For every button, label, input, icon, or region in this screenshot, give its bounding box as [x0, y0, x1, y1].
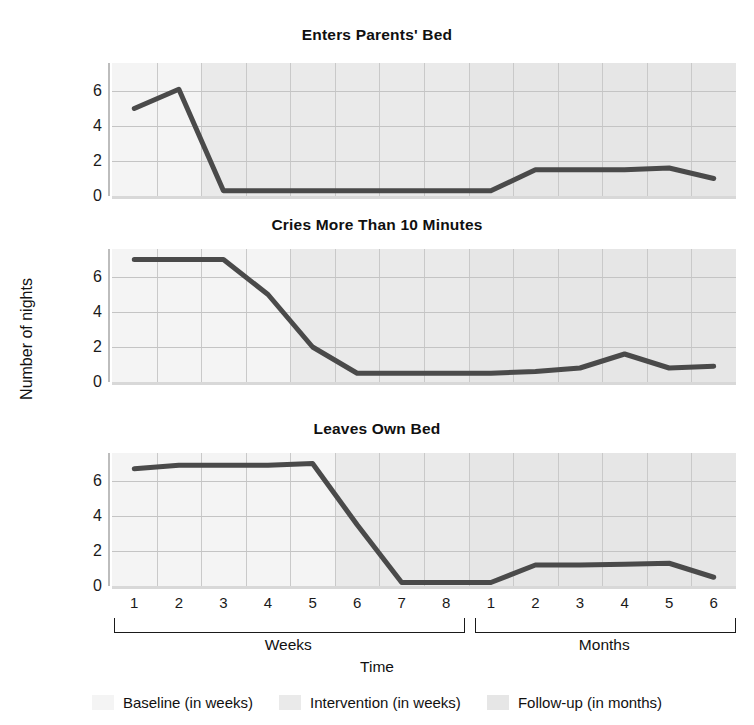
- legend-item-baseline: Baseline (in weeks): [92, 694, 253, 711]
- y-axis-line-2: [108, 453, 110, 586]
- bracket-label-weeks: Weeks: [114, 636, 463, 654]
- x-tick-label: 2: [164, 594, 194, 611]
- series-line-0: [112, 63, 736, 196]
- plot-area-2: [112, 453, 736, 586]
- legend-swatch-intervention: [279, 695, 301, 710]
- y-axis-title: Number of nights: [18, 244, 36, 434]
- y-tick-label: 4: [72, 118, 102, 134]
- x-tick-label: 6: [699, 594, 729, 611]
- y-tick-label: 6: [72, 473, 102, 489]
- bracket-label-months: Months: [475, 636, 734, 654]
- plot-area-0: [112, 63, 736, 196]
- figure-root: Number of nights Enters Parents' Bed0246…: [0, 0, 754, 725]
- x-tick-label: 5: [298, 594, 328, 611]
- x-tick-label: 4: [253, 594, 283, 611]
- legend-label-intervention: Intervention (in weeks): [310, 694, 461, 711]
- plot-area-1: [112, 249, 736, 382]
- legend-item-intervention: Intervention (in weeks): [279, 694, 461, 711]
- series-line-2: [112, 453, 736, 586]
- series-line-1: [112, 249, 736, 382]
- y-tick-label: 6: [72, 83, 102, 99]
- y-tick-label: 4: [72, 304, 102, 320]
- y-tick-label: 2: [72, 543, 102, 559]
- x-tick-label: 3: [565, 594, 595, 611]
- legend-item-followup: Follow-up (in months): [487, 694, 662, 711]
- x-tick-label: 2: [520, 594, 550, 611]
- panel-title-0: Enters Parents' Bed: [0, 26, 754, 44]
- x-axis-line-2: [112, 586, 736, 589]
- legend-swatch-followup: [487, 695, 509, 710]
- panel-title-1: Cries More Than 10 Minutes: [0, 216, 754, 234]
- y-tick-label: 0: [72, 188, 102, 204]
- x-tick-label: 3: [208, 594, 238, 611]
- bracket-weeks: [114, 618, 465, 633]
- legend-label-followup: Follow-up (in months): [518, 694, 662, 711]
- x-tick-label: 6: [342, 594, 372, 611]
- x-axis-line-1: [112, 382, 736, 385]
- legend-swatch-baseline: [92, 695, 114, 710]
- y-tick-label: 6: [72, 269, 102, 285]
- x-axis-title: Time: [0, 658, 754, 676]
- x-tick-label: 7: [387, 594, 417, 611]
- y-axis-line-1: [108, 249, 110, 382]
- y-tick-label: 2: [72, 153, 102, 169]
- x-tick-label: 5: [654, 594, 684, 611]
- y-axis-line-0: [108, 63, 110, 196]
- legend: Baseline (in weeks)Intervention (in week…: [0, 694, 754, 711]
- y-tick-label: 4: [72, 508, 102, 524]
- x-axis-line-0: [112, 196, 736, 199]
- x-tick-label: 1: [476, 594, 506, 611]
- y-tick-label: 0: [72, 578, 102, 594]
- y-tick-label: 2: [72, 339, 102, 355]
- x-tick-label: 4: [610, 594, 640, 611]
- bracket-months: [475, 618, 736, 633]
- legend-label-baseline: Baseline (in weeks): [123, 694, 253, 711]
- y-tick-label: 0: [72, 374, 102, 390]
- panel-title-2: Leaves Own Bed: [0, 420, 754, 438]
- x-tick-label: 1: [119, 594, 149, 611]
- x-tick-label: 8: [431, 594, 461, 611]
